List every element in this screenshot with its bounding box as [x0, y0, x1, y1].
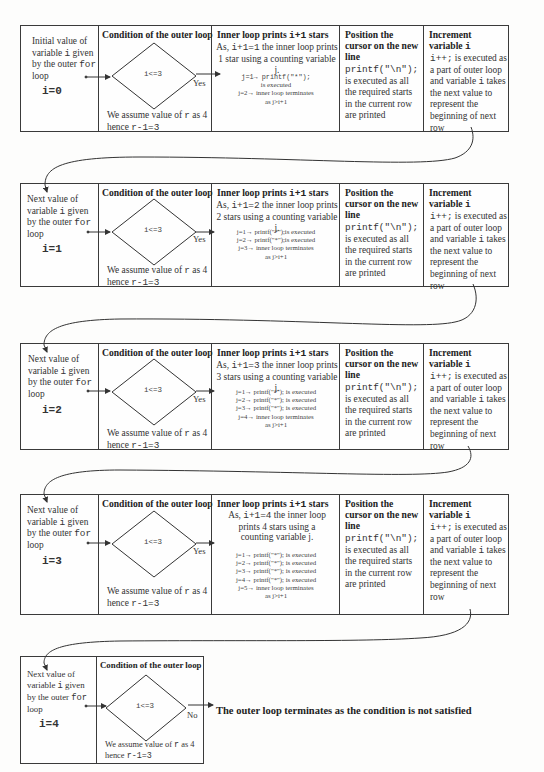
step-line: as j>i+1: [214, 253, 338, 261]
position-body: printf("\n"); is executed as all the req…: [345, 533, 421, 591]
position-body: printf("\n"); is executed as all the req…: [345, 382, 421, 440]
iteration-block-4: Next value of variable i given by the ou…: [20, 494, 509, 615]
step-line: j=2→ printf("*"); is executed: [214, 396, 338, 404]
condition-header: Condition of the outer loop: [102, 29, 213, 40]
condition-expression: i<=3: [144, 70, 162, 78]
position-cursor-cell: Position the cursor on the new line prin…: [340, 495, 424, 614]
position-cursor-cell: Position the cursor on the new line prin…: [340, 26, 424, 131]
next-value-text: Next value of variable i given by the ou…: [28, 354, 94, 400]
i-value: i=3: [42, 555, 62, 567]
yes-label: Yes: [193, 234, 206, 244]
increment-body: i++; is executed as a part of outer loop…: [430, 522, 508, 603]
yes-label: Yes: [193, 394, 206, 404]
assumption-text: We assume value of r as 4hence r-1=3: [105, 740, 215, 761]
condition-header: Condition of the outer loop: [102, 187, 213, 198]
step-line: j=4→ inner loop terminates: [214, 413, 338, 421]
iteration-block-2: Next value of variable i given by the ou…: [20, 183, 509, 287]
i-value: i=1: [42, 243, 62, 255]
i-value: i=0: [42, 85, 62, 97]
position-header: Position the cursor on the new line: [345, 29, 419, 62]
initial-value-cell: Next value of variable i given by the ou…: [21, 344, 99, 449]
increment-header: Increment variable i: [429, 187, 507, 210]
step-line: as j>i+1: [214, 98, 338, 106]
yes-label: Yes: [193, 546, 206, 556]
condition-expression: i<=3: [144, 386, 162, 394]
inner-loop-description: As, i+1=1 the inner loop prints 1 star u…: [216, 42, 338, 77]
increment-body: i++; is executed as a part of outer loop…: [430, 211, 508, 292]
initial-value-cell: Next value of variable i given by the ou…: [21, 495, 99, 614]
initial-value-cell: Next value of variable i given by the ou…: [21, 657, 97, 763]
iteration-block-3: Next value of variable i given by the ou…: [20, 343, 509, 450]
inner-loop-steps: j=1→ printf("*"); is executed j=2→ print…: [214, 551, 338, 600]
increment-cell: Increment variable i i++; is executed as…: [424, 495, 509, 614]
increment-header: Increment variable i: [429, 29, 507, 52]
inner-loop-header: Inner loop prints i+1 stars: [217, 29, 328, 41]
next-value-text: Next value of variable i given by the ou…: [27, 505, 93, 551]
inner-loop-header: Inner loop prints i+1 stars: [217, 498, 328, 510]
position-header: Position the cursor on the new line: [345, 187, 419, 220]
assumption-text: We assume value of r as 4hence r-1=3: [107, 586, 217, 609]
inner-loop-cell: Inner loop prints i+1 stars As, i+1=4 th…: [212, 495, 340, 614]
increment-header: Increment variable i: [429, 347, 507, 370]
condition-cell: Condition of the outer loop i<=3 Yes We …: [99, 184, 212, 286]
increment-body: i++; is executed as a part of outer loop…: [430, 371, 508, 452]
inner-loop-description: As, i+1=4 the inner loop prints 4 stars …: [222, 510, 332, 543]
condition-cell: Condition of the outer loop i<=3 Yes We …: [99, 26, 212, 131]
position-cursor-cell: Position the cursor on the new line prin…: [340, 344, 424, 449]
inner-loop-cell: Inner loop prints i+1 stars As, i+1=3 th…: [212, 344, 340, 449]
increment-cell: Increment variable i i++; is executed as…: [424, 26, 509, 131]
step-line: j=2→ inner loop terminates: [214, 89, 338, 97]
next-value-text: Next value of variable i given by the ou…: [27, 669, 93, 715]
condition-cell: Condition of the outer loop i<=3 Yes We …: [99, 495, 212, 614]
step-line: j=2→ printf("*");is executed: [214, 236, 338, 244]
condition-header: Condition of the outer loop: [102, 498, 213, 509]
condition-header: Condition of the outer loop: [102, 347, 213, 358]
iteration-block-5: Next value of variable i given by the ou…: [20, 656, 204, 764]
step-line: as j>i+1: [214, 421, 338, 429]
step-line: j=4→ printf("*"); is executed: [214, 576, 338, 584]
condition-cell: Condition of the outer loop i<=3 Yes We …: [99, 344, 212, 449]
yes-label: Yes: [193, 78, 206, 88]
step-line: is executed: [214, 81, 338, 89]
inner-loop-header: Inner loop prints i+1 stars: [217, 347, 328, 359]
initial-value-cell: Initial value of variable i given by the…: [21, 26, 99, 131]
no-label: No: [187, 710, 198, 720]
condition-expression: i<=3: [144, 538, 162, 546]
step-line: j=5→ inner loop terminates: [214, 584, 338, 592]
termination-message: The outer loop terminates as the conditi…: [216, 705, 472, 716]
inner-loop-cell: Inner loop prints i+1 stars As, i+1=1 th…: [212, 26, 340, 131]
inner-loop-steps: j=1→ printf("*"); is executed j=2→ inner…: [214, 73, 338, 106]
increment-body: i++; is executed as a part of outer loop…: [430, 53, 508, 134]
assumption-text: We assume value of r as 4hence r-1=3: [107, 428, 217, 451]
inner-loop-steps: j=1→ printf("*"); is executed j=2→ print…: [214, 388, 338, 429]
iteration-block-1: Initial value of variable i given by the…: [20, 25, 509, 132]
inner-loop-steps: j=1→ printf("*");is executed j=2→ printf…: [214, 228, 338, 261]
step-line: j=1→ printf("*");is executed: [214, 228, 338, 236]
position-body: printf("\n"); is executed as all the req…: [345, 64, 421, 122]
position-cursor-cell: Position the cursor on the new line prin…: [340, 184, 424, 286]
assumption-text: We assume value of r as 4hence r-1=3: [107, 110, 217, 133]
step-line: j=3→ printf("*"); is executed: [214, 567, 338, 575]
position-header: Position the cursor on the new line: [345, 347, 419, 380]
next-value-text: Next value of variable i given by the ou…: [27, 194, 93, 240]
step-line: j=2→ printf("*"); is executed: [214, 559, 338, 567]
step-line: as j>i+1: [214, 592, 338, 600]
initial-value-text: Initial value of variable i given by the…: [32, 36, 98, 82]
assumption-text: We assume value of r as 4hence r-1=3: [107, 265, 217, 288]
increment-header: Increment variable i: [429, 498, 507, 521]
condition-expression: i<=3: [136, 702, 154, 710]
inner-loop-header: Inner loop prints i+1 stars: [217, 187, 328, 199]
step-line: j=1→ printf("*"); is executed: [214, 388, 338, 396]
position-header: Position the cursor on the new line: [345, 498, 419, 531]
initial-value-cell: Next value of variable i given by the ou…: [21, 184, 99, 286]
step-line: j=3→ inner loop terminates: [214, 244, 338, 252]
condition-header: Condition of the outer loop: [100, 660, 202, 671]
i-value: i=2: [42, 404, 62, 416]
step-line: j=3→ printf("*"); is executed: [214, 404, 338, 412]
position-body: printf("\n"); is executed as all the req…: [345, 222, 421, 280]
increment-cell: Increment variable i i++; is executed as…: [424, 344, 509, 449]
i-value: i=4: [39, 718, 59, 730]
condition-cell: Condition of the outer loop i<=3 No We a…: [97, 657, 203, 763]
step-line: j=1→ printf("*"); is executed: [214, 551, 338, 559]
inner-loop-cell: Inner loop prints i+1 stars As, i+1=2 th…: [212, 184, 340, 286]
